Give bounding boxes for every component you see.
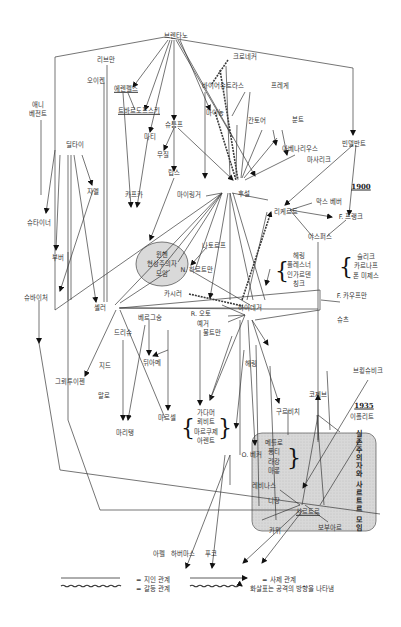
brace-schlick-group: { (339, 256, 353, 278)
node-brunschvicg: 브룅슈비크 (353, 368, 383, 374)
node-mainlinger: 마이링거 (177, 192, 201, 198)
node-sartre: 사르트르 (296, 509, 320, 515)
node-jaeger: 예거 (197, 321, 209, 327)
node-munich-group: 뮌헨 현상주의자 모임 (147, 250, 177, 278)
node-foucault: 푸코 (205, 551, 217, 557)
node-schutz: 슈츠 (337, 317, 349, 323)
node-malraux: 말로 (98, 393, 110, 399)
node-marcel: 마르셀 (158, 415, 176, 421)
legend-attack-line (190, 585, 242, 587)
node-steiner: 슈타이너 (27, 220, 51, 226)
node-rickert: 리케르트 (274, 209, 298, 215)
node-r-otto: R. 오토 (191, 311, 211, 317)
node-gadamer-group: 가다머 뢰비트 마르쿠제 아렌트 (194, 409, 218, 446)
node-jaspers: 야스퍼스 (308, 234, 332, 240)
node-cassirer: 카시러 (164, 291, 182, 297)
node-groethuysen: 그뢰투이젠 (55, 379, 85, 385)
node-levinas: 레비나스 (252, 483, 276, 489)
node-maritain: 마리탱 (116, 430, 134, 436)
node-schlick-group: 슐리크 카르나프 폰 미제스 (353, 253, 379, 281)
node-simmel: 지멜 (87, 189, 99, 195)
node-o-becker: O. 베커 (242, 452, 263, 458)
node-habermas: 하버마스 (171, 551, 195, 557)
node-hyppolite: 이폴리트 (350, 414, 374, 420)
node-f-kaufmann: F. 카우프만 (337, 293, 368, 299)
year-1935: 1935 (354, 401, 373, 410)
node-liebmann: 리브만 (97, 57, 115, 63)
node-twardowski: 트바르도프스키 (118, 108, 160, 114)
brace-gadamer-left: { (181, 417, 195, 439)
node-herring-group: 헤링 플레스너 인가르덴 칭크 (287, 252, 311, 289)
node-apel: 아펠 (153, 551, 165, 557)
node-max-weber: 막스 베버 (316, 199, 342, 205)
node-meinong: 마이농 (206, 110, 224, 116)
node-weierstrass: 바이어슈트라스 (202, 83, 244, 89)
node-husserl: 후설 (238, 191, 250, 197)
node-wundt: 분트 (292, 117, 304, 123)
node-kojeve: 코제브 (309, 392, 327, 398)
node-anna-bezant: 애니 베전트 (29, 101, 47, 120)
node-frege: 프레게 (271, 83, 289, 89)
node-bergson: 베르그송 (138, 315, 162, 321)
node-dilthey: 딜타이 (66, 142, 84, 148)
brace-herring-group: { (275, 260, 289, 282)
node-kroner: 크로네커 (233, 54, 257, 60)
node-lipps: 립스 (168, 170, 180, 176)
node-beauvoir: 보부아르 (318, 525, 342, 531)
node-gide: 지드 (99, 363, 111, 369)
node-heidegger: 하이데거 (238, 305, 262, 311)
node-n-hartmann: N. 하르트만 (181, 267, 214, 273)
node-merleau-group: 메를로 퐁티 라캉 마롱 (265, 439, 283, 476)
node-kafka: 카프카 (125, 192, 143, 198)
node-hering: 헤링 (245, 361, 257, 367)
node-ehrenfels: 에렌펠스 (114, 86, 138, 92)
node-schweitzer: 슈바이처 (24, 295, 48, 301)
node-gurwitsch: 구르비치 (276, 409, 300, 415)
node-brentano: 브렌타노 (164, 33, 188, 39)
legend-conflict-label: = 갈등 관계 (136, 583, 170, 593)
node-camus: 카뮈 (269, 528, 281, 534)
node-nizan: 니장 (268, 498, 280, 504)
legend-conflict-line (61, 585, 121, 587)
node-f-frank: F. 프랭크 (339, 214, 364, 220)
node-marty: 마티 (144, 134, 156, 140)
node-stumpf: 슈툼프 (165, 122, 183, 128)
node-avenarius: 아베나리우스 (282, 146, 318, 152)
node-windelband: 빈델반트 (342, 141, 366, 147)
node-masaryk: 마사리크 (307, 157, 331, 163)
node-cantor: 칸토어 (248, 118, 266, 124)
brace-gadamer-right: } (218, 417, 232, 439)
node-duhamel: 뒤아메 (143, 360, 161, 366)
node-bultmann: 불트만 (203, 330, 221, 336)
node-musil: 무질 (157, 152, 169, 158)
node-scheler: 셸러 (94, 305, 106, 311)
node-driesch: 드리슈 (114, 330, 132, 336)
node-buber: 부버 (52, 255, 64, 261)
legend-attack-label: 화살표는 공격의 방향을 나타냄 (250, 583, 334, 593)
year-1900: 1900 (351, 182, 370, 191)
node-eucken: 오이켄 (87, 78, 105, 84)
node-natorp: 나토르프 (202, 243, 226, 249)
brace-merleau-group: } (287, 447, 301, 469)
label-existentialist-group: 실존주의자와 사르트르 모임 (353, 430, 363, 533)
